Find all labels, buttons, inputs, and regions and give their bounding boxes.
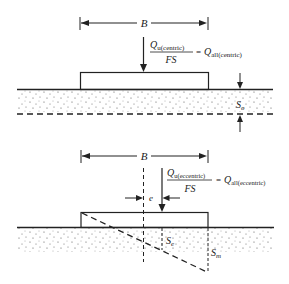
width-dimension-bottom: B: [81, 150, 208, 163]
eccentric-footing: [81, 213, 208, 228]
width-label-b-bottom: B: [141, 150, 148, 162]
fs-eccentric-symbol: FS: [183, 183, 195, 194]
soil-hatch: [17, 90, 272, 112]
fs-symbol: FS: [164, 54, 176, 65]
svg-text:=: =: [196, 47, 201, 57]
centric-footing-diagram: B Qu(centric) FS = Qall(centric) So: [17, 17, 273, 132]
qall-symbol: Qall(centric): [204, 46, 243, 59]
eccentric-footing-diagram: B Qu(eccentric) FS = Qall(eccentric) e: [17, 150, 274, 272]
eccentric-load-arrow: [159, 168, 166, 212]
e-label: e: [149, 193, 153, 203]
centric-load-equation: Qu(centric) FS = Qall(centric): [150, 39, 243, 65]
centric-load-arrow: [140, 37, 147, 72]
eccentric-load-equation: Qu(eccentric) FS = Qall(eccentric): [167, 167, 266, 194]
qu-eccentric-symbol: Qu(eccentric): [167, 167, 205, 180]
qall-eccentric-symbol: Qall(eccentric): [224, 174, 266, 187]
centric-footing: [81, 73, 209, 90]
width-label-b: B: [141, 17, 148, 29]
soil-hatch-bottom: [17, 228, 272, 252]
qu-symbol: Qu(centric): [150, 39, 185, 52]
footing-settlement-diagram: B Qu(centric) FS = Qall(centric) So: [0, 0, 289, 284]
svg-text:=: =: [216, 175, 221, 185]
width-dimension: B: [80, 17, 208, 30]
